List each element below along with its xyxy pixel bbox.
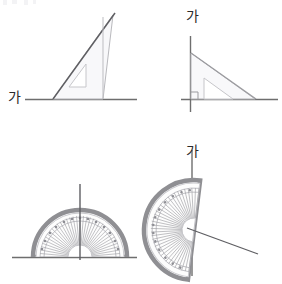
- vertex-label-ga-bottom-right: 가: [186, 144, 199, 158]
- figure-top-right: 가: [141, 0, 282, 142]
- figure-bottom-left: 가: [0, 142, 141, 284]
- protractor-group: [138, 174, 200, 279]
- vertex-label-ga-top-right: 가: [186, 9, 199, 23]
- angle-ray-line: [187, 228, 258, 254]
- vertex-label-ga-top-left: 가: [8, 90, 21, 104]
- figure-sheet: 가 가: [0, 0, 282, 284]
- protractor-rotated-svg: [141, 142, 282, 284]
- protractor-horizontal-svg: [0, 142, 141, 284]
- figure-bottom-right: 가: [141, 142, 282, 284]
- figure-top-left: 가: [0, 0, 141, 142]
- set-square-vertical-svg: [141, 0, 282, 142]
- set-square-horizontal-svg: [0, 0, 141, 142]
